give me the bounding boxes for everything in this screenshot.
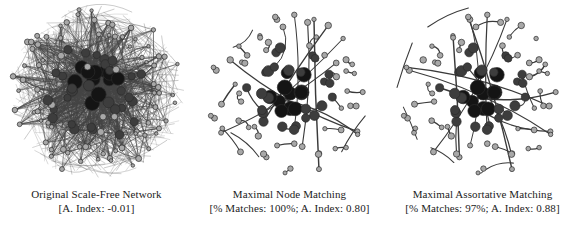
caption-original-scale-free-network: Original Scale-Free Network [A. Index: -… bbox=[0, 188, 193, 215]
graph-original-scale-free-network bbox=[0, 0, 193, 188]
caption-maximal-assortative-matching: Maximal Assortative Matching [% Matches:… bbox=[386, 188, 578, 215]
panel-original-scale-free-network: Original Scale-Free Network [A. Index: -… bbox=[0, 0, 193, 236]
graph-maximal-node-matching bbox=[193, 0, 386, 188]
caption-title: Original Scale-Free Network bbox=[0, 188, 193, 202]
caption-metrics: [A. Index: -0.01] bbox=[0, 202, 193, 216]
network-comparison-figure: Original Scale-Free Network [A. Index: -… bbox=[0, 0, 578, 236]
caption-maximal-node-matching: Maximal Node Matching [% Matches: 100%; … bbox=[193, 188, 386, 215]
panel-maximal-node-matching: Maximal Node Matching [% Matches: 100%; … bbox=[193, 0, 386, 236]
caption-metrics: [% Matches: 100%; A. Index: 0.80] bbox=[193, 202, 386, 216]
graph-maximal-assortative-matching bbox=[386, 0, 578, 188]
caption-title: Maximal Assortative Matching bbox=[386, 188, 578, 202]
panel-maximal-assortative-matching: Maximal Assortative Matching [% Matches:… bbox=[386, 0, 578, 236]
caption-title: Maximal Node Matching bbox=[193, 188, 386, 202]
caption-metrics: [% Matches: 97%; A. Index: 0.88] bbox=[386, 202, 578, 216]
